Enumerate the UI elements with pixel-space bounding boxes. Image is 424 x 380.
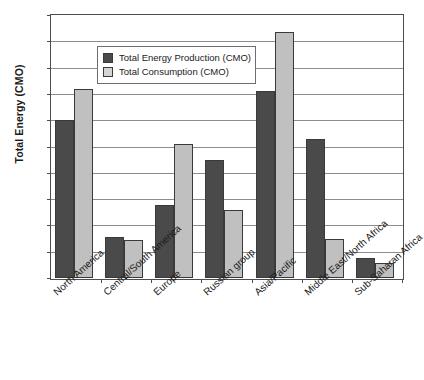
legend-item-consumption: Total Consumption (CMO): [103, 65, 250, 78]
x-tick-mark: [151, 279, 152, 283]
x-tick-mark: [352, 279, 353, 283]
chart-legend: Total Energy Production (CMO) Total Cons…: [97, 46, 256, 84]
x-category-label: Europe: [152, 268, 183, 298]
x-tick-mark: [402, 279, 403, 283]
x-category-label: Russian group: [202, 246, 257, 297]
x-tick-mark: [201, 279, 202, 283]
x-category-label: Asia/Pacific: [252, 255, 298, 298]
legend-item-production: Total Energy Production (CMO): [103, 51, 250, 64]
x-tick-mark: [302, 279, 303, 283]
legend-label-consumption: Total Consumption (CMO): [119, 66, 229, 77]
x-tick-mark: [252, 279, 253, 283]
x-category-label: North America: [51, 247, 105, 298]
x-category-label: Middle East/North Africa: [302, 218, 389, 298]
legend-label-production: Total Energy Production (CMO): [119, 52, 251, 63]
legend-swatch-consumption-icon: [103, 67, 113, 77]
x-tick-mark: [101, 279, 102, 283]
legend-swatch-production-icon: [103, 53, 113, 63]
